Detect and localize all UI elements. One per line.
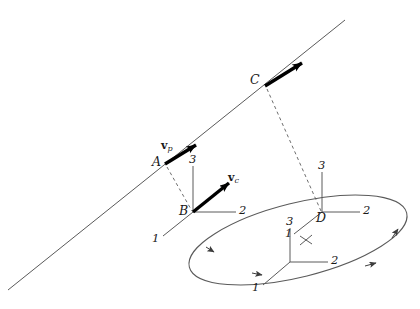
segment-c-arrow xyxy=(265,63,302,86)
coordinate-frame-b xyxy=(163,166,236,236)
orbit-arrow-lower-left xyxy=(206,247,214,252)
velocity-c-arrow xyxy=(193,183,229,212)
coordinate-frame-orbit-lower xyxy=(263,228,328,285)
label-frame-lower-axis-3: 3 xyxy=(286,216,293,228)
orbit-arrow-bottom xyxy=(252,273,262,275)
label-frame-b-axis-1: 1 xyxy=(152,233,159,245)
label-point-b: B xyxy=(179,205,188,218)
label-frame-d-axis-3: 3 xyxy=(318,160,325,172)
orbit-direction-arrows xyxy=(206,229,398,275)
frame-lower-axis-1 xyxy=(263,262,290,285)
label-point-d: D xyxy=(316,212,326,225)
label-velocity-c: vc xyxy=(228,172,239,185)
orbit-arrow-bottom-right xyxy=(365,263,376,266)
label-frame-b-axis-3: 3 xyxy=(189,154,196,166)
frame-b-axis-1 xyxy=(163,212,193,236)
velocity-p-subscript: p xyxy=(167,144,172,153)
label-frame-b-axis-2: 2 xyxy=(239,205,246,217)
label-frame-lower-axis-2: 2 xyxy=(331,255,338,267)
coordinate-frame-d xyxy=(294,172,360,245)
thick-segment-at-c xyxy=(265,63,302,86)
label-velocity-p: vp xyxy=(161,140,173,153)
dashed-line-c-to-d xyxy=(267,89,321,211)
label-frame-d-axis-2: 2 xyxy=(363,205,370,217)
label-frame-d-axis-1: 1 xyxy=(285,228,292,240)
label-point-a: A xyxy=(152,156,161,169)
velocity-c-subscript: c xyxy=(234,176,238,185)
frame-d-axis-1-tick-b xyxy=(300,235,312,245)
orbital-diagram-figure: A B C D vp vc 3 2 1 3 2 1 3 2 1 xyxy=(0,0,420,309)
label-point-c: C xyxy=(250,74,260,87)
label-frame-lower-axis-1: 1 xyxy=(252,282,259,294)
diagram-canvas xyxy=(0,0,420,309)
